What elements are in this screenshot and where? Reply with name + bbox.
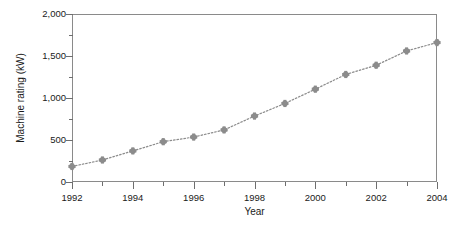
data-point-marker: [342, 71, 349, 78]
x-tick-minor: [407, 182, 408, 186]
data-point-marker: [68, 163, 75, 170]
data-point-marker: [251, 112, 258, 119]
data-point-marker: [312, 86, 319, 93]
data-point-marker: [99, 156, 106, 163]
x-tick-minor: [285, 182, 286, 186]
data-point-marker: [220, 126, 227, 133]
y-tick-major: [66, 98, 73, 99]
x-tick-label: 1992: [50, 192, 94, 203]
x-tick-label: 2000: [293, 192, 337, 203]
data-point-marker: [373, 62, 380, 69]
plot-area: [72, 14, 437, 182]
y-tick-minor: [69, 35, 73, 36]
series-markers: [68, 39, 440, 170]
x-tick-label: 1998: [233, 192, 277, 203]
x-tick-minor: [224, 182, 225, 186]
y-tick-major: [66, 140, 73, 141]
x-tick-major: [194, 182, 195, 189]
data-point-marker: [281, 100, 288, 107]
chart-figure: 05001,0001,5002,000 19921994199619982000…: [0, 0, 469, 233]
data-point-marker: [160, 138, 167, 145]
data-point-marker: [433, 39, 440, 46]
data-point-marker: [403, 47, 410, 54]
x-tick-major: [133, 182, 134, 189]
y-axis-title: Machine rating (kW): [14, 14, 28, 182]
y-tick-minor: [69, 77, 73, 78]
x-tick-major: [315, 182, 316, 189]
series-line-machine-rating: [72, 43, 437, 167]
x-tick-minor: [102, 182, 103, 186]
data-point-marker: [129, 147, 136, 154]
x-tick-major: [376, 182, 377, 189]
y-tick-major: [66, 56, 73, 57]
y-tick-major: [66, 14, 73, 15]
x-tick-major: [255, 182, 256, 189]
x-tick-major: [437, 182, 438, 189]
x-tick-label: 2004: [415, 192, 459, 203]
y-tick-minor: [69, 119, 73, 120]
x-tick-major: [72, 182, 73, 189]
x-tick-label: 1994: [111, 192, 155, 203]
x-tick-label: 1996: [172, 192, 216, 203]
x-axis-title: Year: [72, 206, 437, 218]
x-tick-minor: [163, 182, 164, 186]
data-point-marker: [190, 133, 197, 140]
x-tick-minor: [346, 182, 347, 186]
x-tick-label: 2002: [354, 192, 398, 203]
y-tick-minor: [69, 161, 73, 162]
